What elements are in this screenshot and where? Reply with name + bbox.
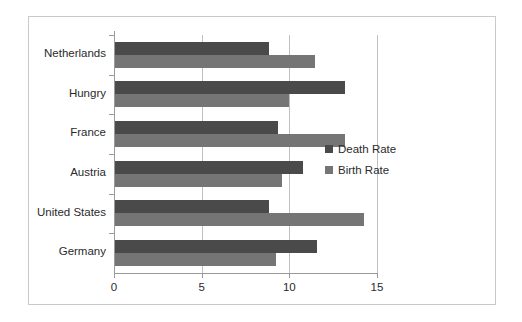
bar[interactable] <box>115 55 315 68</box>
y-tick-4 <box>109 194 114 195</box>
bar[interactable] <box>115 134 345 147</box>
x-tick-label-15: 15 <box>371 281 384 293</box>
x-tick-label-5: 5 <box>198 281 204 293</box>
legend-item[interactable]: Death Rate <box>325 143 396 155</box>
y-tick-3 <box>109 154 114 155</box>
y-tick-1 <box>109 75 114 76</box>
chart-legend: Death RateBirth Rate <box>325 143 396 185</box>
bar-group <box>115 75 378 115</box>
category-label: Germany <box>0 245 106 257</box>
x-tick-label-0: 0 <box>111 281 117 293</box>
category-label: Austria <box>0 166 106 178</box>
y-tick-5 <box>109 233 114 234</box>
x-tick-10 <box>289 273 290 278</box>
y-tick-0 <box>109 35 114 36</box>
x-tick-15 <box>377 273 378 278</box>
legend-item[interactable]: Birth Rate <box>325 164 396 176</box>
category-axis-labels: NetherlandsHungryFranceAustriaUnited Sta… <box>0 35 106 273</box>
bar[interactable] <box>115 213 364 226</box>
y-tick-2 <box>109 114 114 115</box>
x-axis-line <box>114 273 377 274</box>
x-tick-0 <box>114 273 115 278</box>
category-label: France <box>0 126 106 138</box>
bar[interactable] <box>115 240 317 253</box>
bar[interactable] <box>115 161 303 174</box>
legend-swatch-icon <box>325 145 333 153</box>
bar-group <box>115 233 378 273</box>
bar[interactable] <box>115 121 278 134</box>
category-label: Hungry <box>0 87 106 99</box>
bar[interactable] <box>115 200 269 213</box>
bar[interactable] <box>115 253 276 266</box>
category-label: Netherlands <box>0 47 106 59</box>
x-tick-5 <box>202 273 203 278</box>
bar-group <box>115 194 378 234</box>
bar[interactable] <box>115 174 282 187</box>
bar[interactable] <box>115 94 289 107</box>
chart-frame: NetherlandsHungryFranceAustriaUnited Sta… <box>28 16 496 305</box>
legend-label: Death Rate <box>338 143 396 155</box>
x-tick-label-10: 10 <box>283 281 296 293</box>
category-label: United States <box>0 206 106 218</box>
bar-group <box>115 35 378 75</box>
legend-swatch-icon <box>325 166 333 174</box>
bar[interactable] <box>115 42 269 55</box>
legend-label: Birth Rate <box>338 164 389 176</box>
bar[interactable] <box>115 81 345 94</box>
